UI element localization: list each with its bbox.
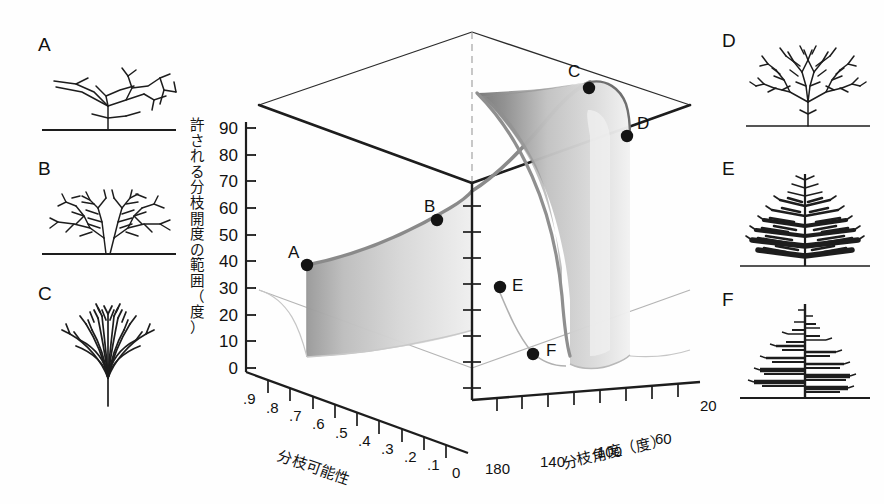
x-left-tick-0: 0 bbox=[452, 464, 460, 481]
z-tick-40: 40 bbox=[212, 252, 238, 272]
z-cap-ch-13: ） bbox=[186, 321, 208, 337]
tree-thumbnail-c bbox=[36, 300, 181, 408]
z-cap-ch-8: の bbox=[186, 243, 208, 259]
z-cap-ch-3: る bbox=[186, 165, 208, 181]
z-cap-ch-12: 度 bbox=[186, 305, 208, 321]
z-tick-70: 70 bbox=[212, 172, 238, 192]
plot-label-b: B bbox=[424, 197, 435, 217]
tree-thumbnail-f bbox=[736, 298, 874, 402]
x-left-tick-01: .1 bbox=[427, 456, 440, 473]
z-cap-ch-11: （ bbox=[186, 290, 208, 306]
z-axis-caption: 許 さ れ る 分 枝 開 度 の 範 囲 （ 度 ） bbox=[186, 118, 208, 336]
plot-label-e: E bbox=[512, 276, 523, 296]
z-cap-ch-0: 許 bbox=[186, 118, 208, 134]
surface-left-wing bbox=[307, 190, 473, 357]
z-axis-left-ticks bbox=[246, 128, 256, 368]
thumb-label-a: A bbox=[38, 34, 51, 56]
z-tick-30: 30 bbox=[212, 279, 238, 299]
point-marker-e bbox=[494, 281, 506, 293]
x-axis-right bbox=[472, 382, 700, 400]
z-tick-0: 0 bbox=[212, 359, 238, 379]
x-left-tick-06: .6 bbox=[312, 415, 325, 432]
z-cap-ch-7: 度 bbox=[186, 227, 208, 243]
point-marker-f bbox=[527, 348, 539, 360]
z-cap-ch-10: 囲 bbox=[186, 274, 208, 290]
plot-label-d: D bbox=[637, 114, 649, 134]
z-tick-10: 10 bbox=[212, 332, 238, 352]
z-tick-60: 60 bbox=[212, 199, 238, 219]
x-left-tick-04: .4 bbox=[358, 432, 371, 449]
point-marker-a bbox=[301, 259, 313, 271]
z-cap-ch-1: さ bbox=[186, 134, 208, 150]
x-right-tick-20: 20 bbox=[700, 397, 717, 414]
x-left-tick-08: .8 bbox=[266, 399, 279, 416]
x-axis-left bbox=[246, 372, 468, 453]
z-cap-ch-2: れ bbox=[186, 149, 208, 165]
thumb-label-e: E bbox=[722, 158, 735, 180]
plot-label-f: F bbox=[546, 341, 556, 361]
point-marker-c bbox=[583, 82, 595, 94]
z-cap-ch-5: 枝 bbox=[186, 196, 208, 212]
tree-thumbnail-a bbox=[36, 56, 181, 134]
thumb-label-d: D bbox=[722, 30, 736, 52]
x-left-tick-05: .5 bbox=[335, 424, 348, 441]
point-marker-d bbox=[621, 130, 633, 142]
z-cap-ch-4: 分 bbox=[186, 180, 208, 196]
x-left-tick-09: .9 bbox=[243, 390, 256, 407]
tree-thumbnail-d bbox=[742, 40, 874, 130]
tree-thumbnail-e bbox=[736, 166, 874, 270]
plot-label-c: C bbox=[568, 62, 580, 82]
plot-label-a: A bbox=[288, 243, 299, 263]
z-cap-ch-9: 範 bbox=[186, 258, 208, 274]
x-axis-right-ticks bbox=[497, 384, 678, 411]
x-left-tick-03: .3 bbox=[381, 440, 394, 457]
tree-thumbnail-b bbox=[36, 180, 181, 258]
z-cap-ch-6: 開 bbox=[186, 212, 208, 228]
thumb-label-f: F bbox=[722, 289, 734, 311]
x-left-tick-07: .7 bbox=[289, 407, 302, 424]
x-left-tick-02: .2 bbox=[404, 448, 417, 465]
z-tick-20: 20 bbox=[212, 306, 238, 326]
figure-canvas: 許 さ れ る 分 枝 開 度 の 範 囲 （ 度 ） 90 80 70 60 … bbox=[0, 0, 884, 504]
z-tick-50: 50 bbox=[212, 226, 238, 246]
z-tick-90: 90 bbox=[212, 119, 238, 139]
z-tick-80: 80 bbox=[212, 146, 238, 166]
thumb-label-b: B bbox=[38, 158, 51, 180]
x-right-tick-180: 180 bbox=[485, 460, 510, 477]
